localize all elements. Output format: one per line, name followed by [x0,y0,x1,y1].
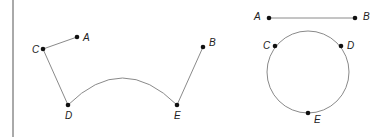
point-a [75,35,80,40]
point-d [66,103,71,108]
label-a: A [253,11,261,22]
label-d: D [65,110,72,121]
point-b [201,45,206,50]
segment-cd [43,49,68,105]
arc-de [68,78,177,105]
label-a: A [82,32,90,43]
geometry-diagram: A B C D E A B C D E [0,0,391,137]
label-b: B [363,11,370,22]
point-c [273,44,278,49]
point-a [267,16,272,21]
point-e [175,103,180,108]
label-c: C [263,40,271,51]
label-e: E [314,114,321,125]
label-e: E [174,110,181,121]
left-figure: A B C D E [32,32,216,121]
right-figure: A B C D E [253,11,370,125]
label-c: C [32,44,40,55]
point-c [41,47,46,52]
segment-eb [177,47,203,105]
point-b [353,16,358,21]
label-d: D [347,40,354,51]
point-d [339,44,344,49]
segment-ca [43,37,77,49]
circle [267,31,349,113]
label-b: B [209,37,216,48]
point-e [306,111,311,116]
